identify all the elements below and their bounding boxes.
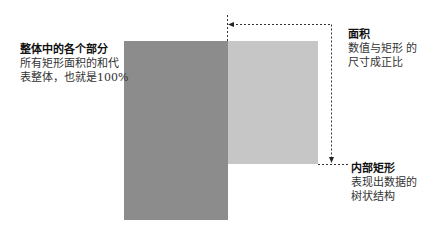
- inner-annotation: 内部矩形 表现出数据的 树状结构: [351, 162, 417, 204]
- arrow-left-icon: [228, 22, 234, 27]
- whole-annotation: 整体中的各个部分 所有矩形面积的和代 表整体，也就是100%: [20, 43, 128, 85]
- whole-line2: 表整体，也就是100%: [20, 71, 128, 85]
- inner-line1: 表现出数据的: [351, 176, 417, 190]
- area-line1: 数值与矩形 的: [348, 42, 418, 56]
- area-line2: 尺寸成正比: [348, 56, 418, 70]
- whole-title: 整体中的各个部分: [20, 43, 128, 57]
- area-title: 面积: [348, 28, 418, 42]
- inner-title: 内部矩形: [351, 162, 417, 176]
- whole-line1: 所有矩形面积的和代: [20, 57, 128, 71]
- arrow-down-icon: [329, 157, 334, 163]
- inner-line2: 树状结构: [351, 190, 417, 204]
- area-annotation: 面积 数值与矩形 的 尺寸成正比: [348, 28, 418, 70]
